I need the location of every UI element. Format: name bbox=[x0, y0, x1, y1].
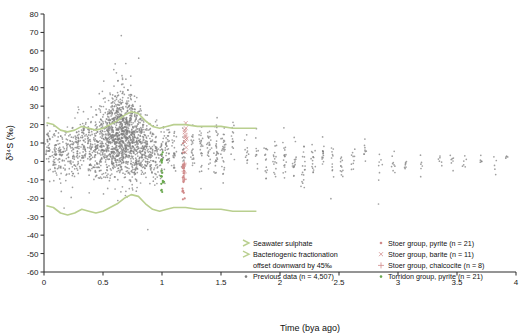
data-point bbox=[122, 157, 124, 159]
data-point bbox=[312, 160, 314, 162]
data-point bbox=[111, 118, 113, 120]
data-point bbox=[144, 145, 146, 147]
data-point bbox=[322, 163, 324, 165]
data-point bbox=[88, 134, 90, 136]
data-point bbox=[165, 142, 167, 144]
data-point bbox=[332, 148, 334, 150]
data-point bbox=[495, 160, 497, 162]
data-point bbox=[127, 138, 129, 140]
data-point bbox=[145, 176, 147, 178]
data-point bbox=[149, 151, 151, 153]
data-point bbox=[285, 161, 287, 163]
data-point bbox=[200, 142, 202, 144]
data-point bbox=[285, 171, 287, 173]
data-point bbox=[120, 35, 122, 37]
bacteriogenic-fractionation-legend-icon bbox=[243, 251, 249, 257]
data-point bbox=[230, 153, 232, 155]
data-point bbox=[81, 164, 83, 166]
data-point bbox=[84, 149, 86, 151]
data-point bbox=[127, 145, 129, 147]
data-point bbox=[57, 136, 59, 138]
data-point bbox=[124, 144, 126, 146]
data-point bbox=[116, 97, 118, 99]
data-point bbox=[59, 158, 61, 160]
data-point bbox=[109, 155, 111, 157]
data-point bbox=[130, 117, 132, 119]
data-point bbox=[303, 174, 305, 176]
stoer-barite-legend-icon bbox=[379, 252, 383, 256]
data-point bbox=[200, 145, 202, 147]
data-point bbox=[144, 149, 146, 151]
data-point bbox=[313, 169, 315, 171]
data-point bbox=[99, 131, 101, 133]
data-point bbox=[167, 141, 169, 143]
data-point bbox=[132, 122, 134, 124]
data-point bbox=[121, 93, 123, 95]
data-point bbox=[331, 163, 333, 165]
data-point bbox=[119, 135, 121, 137]
data-point bbox=[274, 161, 276, 163]
data-point bbox=[92, 166, 94, 168]
data-point bbox=[60, 182, 62, 184]
data-point bbox=[117, 155, 119, 157]
data-point bbox=[96, 140, 98, 142]
data-point bbox=[118, 152, 120, 154]
data-point bbox=[341, 156, 343, 158]
data-point bbox=[216, 134, 218, 136]
data-point bbox=[90, 147, 92, 149]
data-point bbox=[159, 165, 161, 167]
data-point bbox=[132, 162, 134, 164]
data-point bbox=[89, 153, 91, 155]
data-point bbox=[116, 132, 118, 134]
data-point bbox=[65, 174, 67, 176]
data-point bbox=[59, 178, 61, 180]
data-point bbox=[302, 182, 304, 184]
data-point bbox=[137, 148, 139, 150]
data-point bbox=[137, 155, 139, 157]
data-point bbox=[122, 172, 124, 174]
data-point bbox=[97, 141, 99, 143]
data-point bbox=[166, 152, 168, 154]
data-point bbox=[353, 160, 355, 162]
data-point bbox=[52, 136, 54, 138]
data-point bbox=[174, 147, 176, 149]
data-point bbox=[231, 135, 233, 137]
data-point bbox=[352, 156, 354, 158]
data-point bbox=[71, 175, 73, 177]
data-point bbox=[113, 139, 115, 141]
data-point bbox=[147, 135, 149, 137]
data-point bbox=[79, 124, 81, 126]
data-point bbox=[130, 115, 132, 117]
data-point bbox=[114, 95, 116, 97]
data-point bbox=[221, 166, 223, 168]
data-point bbox=[352, 162, 354, 164]
data-point bbox=[68, 173, 70, 175]
data-point bbox=[173, 132, 175, 134]
data-point bbox=[216, 145, 218, 147]
data-point bbox=[76, 136, 78, 138]
data-point bbox=[113, 85, 115, 87]
data-point bbox=[125, 151, 127, 153]
data-point bbox=[161, 191, 163, 193]
data-point bbox=[89, 156, 91, 158]
data-point bbox=[133, 131, 135, 133]
data-point bbox=[209, 136, 211, 138]
previous-data-points bbox=[44, 35, 508, 231]
data-point bbox=[136, 180, 138, 182]
data-point bbox=[125, 148, 127, 150]
data-point bbox=[168, 129, 170, 131]
data-point bbox=[73, 154, 75, 156]
data-point bbox=[394, 165, 396, 167]
data-point bbox=[129, 135, 131, 137]
data-point bbox=[156, 124, 158, 126]
data-point bbox=[215, 130, 217, 132]
data-point bbox=[303, 187, 305, 189]
data-point bbox=[184, 146, 188, 150]
data-point bbox=[120, 134, 122, 136]
data-point bbox=[208, 150, 210, 152]
data-point bbox=[192, 154, 194, 156]
data-point bbox=[68, 168, 70, 170]
data-point bbox=[123, 94, 125, 96]
data-point bbox=[60, 135, 62, 137]
data-point bbox=[144, 172, 146, 174]
